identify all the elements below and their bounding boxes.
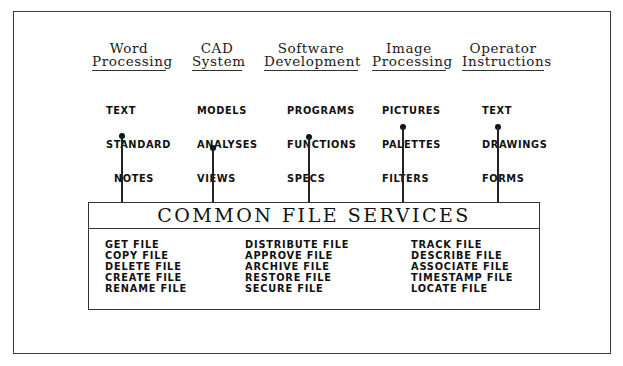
- service-item: RESTORE FILE: [245, 272, 349, 283]
- service-item: ARCHIVE FILE: [245, 261, 349, 272]
- service-item: DESCRIBE FILE: [411, 250, 513, 261]
- services-title: COMMON FILE SERVICES: [89, 203, 539, 229]
- connector-line: [308, 137, 310, 202]
- list-item: FILTERS: [382, 173, 441, 184]
- service-item: LOCATE FILE: [411, 283, 513, 294]
- service-item: GET FILE: [105, 239, 187, 250]
- list-item: DRAWINGS: [482, 139, 547, 150]
- service-item: ASSOCIATE FILE: [411, 261, 513, 272]
- service-item: SECURE FILE: [245, 283, 349, 294]
- header-word-processing: Word Processing: [92, 42, 166, 71]
- header-cad-system: CAD System: [192, 42, 242, 71]
- list-item: PALETTES: [382, 139, 441, 150]
- list-item: NOTES: [106, 173, 171, 184]
- connector-line: [497, 127, 499, 202]
- list-item: TEXT: [106, 105, 171, 116]
- service-item: DISTRIBUTE FILE: [245, 239, 349, 250]
- list-item: PROGRAMS: [287, 105, 356, 116]
- connector-line: [402, 127, 404, 202]
- header-line-2: Processing: [372, 55, 446, 71]
- service-item: COPY FILE: [105, 250, 187, 261]
- items-operator-instructions: TEXT DRAWINGS FORMS: [482, 83, 547, 195]
- list-item: TEXT: [482, 105, 547, 116]
- list-item: VIEWS: [197, 173, 258, 184]
- list-item: FUNCTIONS: [287, 139, 356, 150]
- header-line-2: Processing: [92, 55, 166, 71]
- list-item: MODELS: [197, 105, 258, 116]
- common-file-services-box: COMMON FILE SERVICES GET FILE COPY FILE …: [88, 202, 540, 310]
- header-line-2: System: [192, 55, 242, 71]
- services-column-1: GET FILE COPY FILE DELETE FILE CREATE FI…: [105, 239, 187, 294]
- connector-line: [121, 136, 123, 202]
- service-item: RENAME FILE: [105, 283, 187, 294]
- service-item: TRACK FILE: [411, 239, 513, 250]
- service-item: APPROVE FILE: [245, 250, 349, 261]
- list-item: SPECS: [287, 173, 356, 184]
- header-software-development: Software Development: [264, 42, 358, 71]
- list-item: ANALYSES: [197, 139, 258, 150]
- connector-line: [212, 148, 214, 202]
- services-column-3: TRACK FILE DESCRIBE FILE ASSOCIATE FILE …: [411, 239, 513, 294]
- header-image-processing: Image Processing: [372, 42, 446, 71]
- service-item: TIMESTAMP FILE: [411, 272, 513, 283]
- service-item: CREATE FILE: [105, 272, 187, 283]
- list-item: STANDARD: [106, 139, 171, 150]
- header-line-2: Development: [264, 55, 358, 71]
- header-operator-instructions: Operator Instructions: [462, 42, 544, 71]
- service-item: DELETE FILE: [105, 261, 187, 272]
- items-image-processing: PICTURES PALETTES FILTERS: [382, 83, 441, 195]
- list-item: PICTURES: [382, 105, 441, 116]
- list-item: FORMS: [482, 173, 547, 184]
- services-column-2: DISTRIBUTE FILE APPROVE FILE ARCHIVE FIL…: [245, 239, 349, 294]
- header-line-2: Instructions: [462, 55, 544, 71]
